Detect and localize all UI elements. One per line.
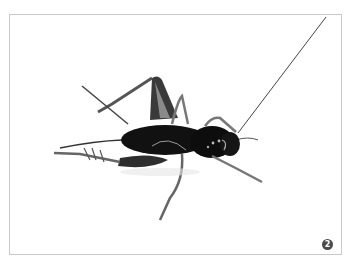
cercus <box>60 140 122 148</box>
hind-leg-spines-upper <box>82 86 128 124</box>
head <box>220 132 240 156</box>
front-leg-lower <box>212 156 262 182</box>
hind-leg-tibia-upper <box>98 78 152 112</box>
cricket-photo <box>0 0 351 266</box>
hind-leg-femur-lower <box>118 155 168 167</box>
figure-number-badge: 2 <box>322 239 333 250</box>
mid-leg-lower <box>160 154 182 220</box>
antenna <box>238 17 326 133</box>
